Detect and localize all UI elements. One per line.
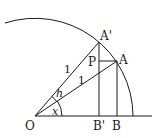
- label-length-1-upper: 1: [64, 63, 71, 76]
- label-angle-h: h: [56, 87, 63, 100]
- label-B: B: [112, 119, 121, 133]
- label-B-prime: B': [93, 119, 105, 133]
- label-O: O: [25, 119, 35, 133]
- label-length-1-lower: 1: [78, 74, 85, 87]
- label-A: A: [118, 53, 128, 67]
- label-A-prime: A': [99, 29, 112, 43]
- label-angle-x: x: [52, 105, 59, 118]
- unit-circle-diagram: O A' A P B' B 1 1 h x: [0, 0, 162, 138]
- label-P: P: [88, 55, 96, 69]
